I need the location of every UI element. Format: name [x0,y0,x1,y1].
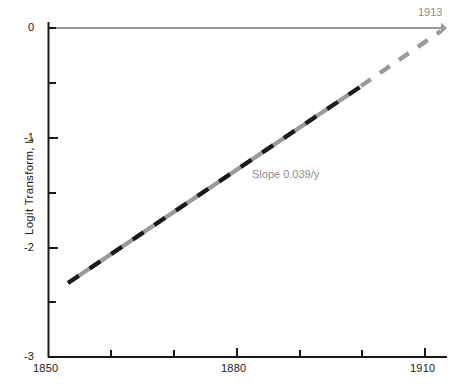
y-axis [49,22,59,358]
extrapolation-line [361,31,441,86]
y-tick-label-0: 0 [28,21,34,33]
chart-figure: Logit Transform, L 0 -1 -2 -3 1850 1880 … [0,0,459,385]
x-tick-label-1910: 1910 [410,362,435,374]
x-tick-label-1850: 1850 [33,362,58,374]
y-tick-label-minus3: -3 [24,350,34,362]
y-tick-label-minus1: -1 [24,131,34,143]
x-tick-label-1880: 1880 [221,362,246,374]
x-axis [48,348,447,357]
saturation-reference-line [49,23,447,34]
plot-canvas [0,0,459,385]
end-year-annotation: 1913 [418,6,442,18]
slope-annotation: Slope 0.039/y [252,168,319,180]
y-tick-label-minus2: -2 [24,241,34,253]
